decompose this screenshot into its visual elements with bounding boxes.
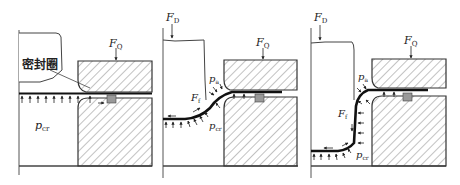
seal-ring	[255, 94, 264, 102]
fq-label: FQ	[403, 34, 418, 48]
fq-label: FQ	[108, 37, 123, 51]
seal-ring	[403, 93, 412, 101]
lower-die	[224, 97, 297, 166]
seal-ring	[107, 95, 116, 103]
seal-ring-label: 密封圈	[22, 57, 58, 72]
lower-die	[372, 96, 446, 166]
fd-label: FD	[313, 11, 328, 25]
diagram-canvas: 密封圈 FQ pcr	[0, 0, 460, 185]
panel-stage-2: FD FQ pa Ff pcr	[163, 11, 298, 178]
hydroforming-diagram: 密封圈 FQ pcr	[0, 0, 460, 185]
blank-holder	[224, 60, 297, 90]
ff-label: Ff	[190, 92, 201, 104]
blank-holder	[372, 59, 446, 88]
punch-body	[163, 40, 206, 100]
fd-label: FD	[165, 11, 180, 25]
blank-holder	[78, 61, 152, 92]
pcr-label: pcr	[35, 119, 50, 133]
pcr-label: pcr	[356, 149, 369, 161]
punch-body	[311, 42, 354, 100]
pcr-label: pcr	[209, 120, 222, 132]
panel-stage-3: FD FQ pa Ff pcr	[311, 11, 446, 178]
panel-stage-1: 密封圈 FQ pcr	[19, 30, 152, 175]
pa-label: pa	[209, 73, 219, 85]
ff-label: Ff	[337, 108, 348, 120]
fq-label: FQ	[255, 36, 270, 50]
lower-die	[78, 98, 152, 166]
pa-label: pa	[358, 71, 368, 83]
